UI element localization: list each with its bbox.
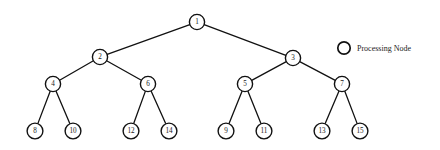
- tree-node-13[interactable]: 13: [314, 123, 330, 139]
- tree-edge: [248, 91, 261, 124]
- node-label: 1: [195, 18, 199, 26]
- tree-edge: [107, 61, 142, 81]
- node-label: 7: [340, 80, 344, 88]
- tree-node-14[interactable]: 14: [161, 123, 177, 139]
- tree-edge: [252, 62, 287, 81]
- node-label: 11: [261, 127, 268, 135]
- processing-node-legend-icon: [338, 42, 350, 54]
- tree-node-5[interactable]: 5: [237, 76, 252, 91]
- tree-node-1[interactable]: 1: [189, 14, 204, 29]
- tree-edge: [345, 91, 357, 124]
- node-label: 3: [291, 54, 295, 62]
- node-label: 6: [146, 80, 150, 88]
- tree-edge: [134, 91, 146, 123]
- node-label: 14: [165, 127, 173, 135]
- tree-nodes: 123465781012149111315: [27, 14, 368, 138]
- node-label: 4: [51, 80, 55, 88]
- tree-node-8[interactable]: 8: [27, 123, 43, 139]
- node-label: 12: [127, 127, 135, 135]
- node-label: 9: [224, 127, 228, 135]
- tree-edge: [107, 25, 190, 55]
- tree-canvas: 123465781012149111315 Processing Node: [0, 0, 440, 150]
- tree-edge: [204, 25, 286, 56]
- tree-edge: [229, 91, 242, 124]
- tree-node-2[interactable]: 2: [92, 49, 107, 64]
- tree-edge: [60, 61, 94, 80]
- node-label: 15: [356, 127, 364, 135]
- tree-node-10[interactable]: 10: [65, 123, 81, 139]
- tree-node-11[interactable]: 11: [256, 123, 272, 139]
- tree-node-3[interactable]: 3: [285, 50, 300, 65]
- node-label: 10: [69, 127, 77, 135]
- tree-node-6[interactable]: 6: [140, 76, 155, 91]
- tree-node-12[interactable]: 12: [123, 123, 139, 139]
- node-label: 13: [318, 127, 326, 135]
- tree-diagram-figure: 123465781012149111315 Processing Node: [0, 0, 440, 150]
- tree-node-4[interactable]: 4: [45, 76, 60, 91]
- legend: Processing Node: [338, 42, 412, 54]
- node-label: 8: [33, 127, 37, 135]
- tree-edge: [325, 91, 339, 124]
- tree-edge: [151, 91, 166, 124]
- tree-node-15[interactable]: 15: [352, 123, 368, 139]
- tree-node-7[interactable]: 7: [334, 76, 349, 91]
- tree-node-9[interactable]: 9: [218, 123, 234, 139]
- tree-edge: [300, 62, 336, 81]
- legend-label: Processing Node: [357, 44, 411, 53]
- tree-edge: [38, 91, 50, 124]
- node-label: 5: [243, 80, 247, 88]
- node-label: 2: [98, 53, 102, 61]
- tree-edge: [56, 91, 70, 124]
- tree-edges: [38, 25, 357, 124]
